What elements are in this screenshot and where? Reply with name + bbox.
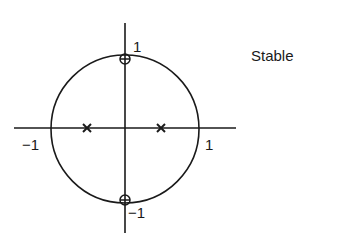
stability-label: Stable (251, 47, 294, 64)
pole-zero-diagram: 1 −1 −1 1 Stable (0, 0, 341, 237)
imag-neg-label: −1 (128, 204, 145, 221)
real-neg-label: −1 (22, 136, 39, 153)
imag-pos-label: 1 (133, 38, 141, 55)
real-pos-label: 1 (205, 136, 213, 153)
